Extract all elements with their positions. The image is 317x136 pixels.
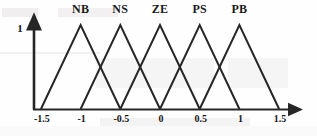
x-axis-tick-label-1-5: 1.5: [274, 114, 287, 124]
x-axis-tick-label-neg1: -1: [77, 114, 85, 124]
x-axis-tick-label-1: 1: [238, 114, 243, 124]
membership-curve-pb: [200, 25, 279, 109]
membership-curve-ns: [81, 25, 160, 109]
y-axis-tick-label-1: 1: [17, 23, 23, 34]
membership-curve-ze: [120, 25, 199, 109]
x-axis-tick-label-neg1-5: -1.5: [34, 114, 50, 124]
set-label-ps: PS: [192, 3, 207, 15]
x-axis-tick-label-0: 0: [159, 114, 164, 124]
x-axis-tick-label-0-5: 0.5: [194, 114, 207, 124]
set-label-ns: NS: [112, 3, 128, 15]
fuzzy-membership-figure: 1 NB NS ZE PS PB -1.5 -1 -0.5 0 0.5 1 1.…: [0, 0, 317, 136]
membership-function-curves: [41, 25, 279, 109]
x-axis-tick-label-neg0-5: -0.5: [113, 114, 129, 124]
set-label-ze: ZE: [152, 3, 169, 15]
set-label-pb: PB: [231, 3, 247, 15]
membership-curve-ps: [160, 25, 239, 109]
set-label-nb: NB: [72, 3, 89, 15]
membership-curve-nb: [41, 25, 120, 109]
